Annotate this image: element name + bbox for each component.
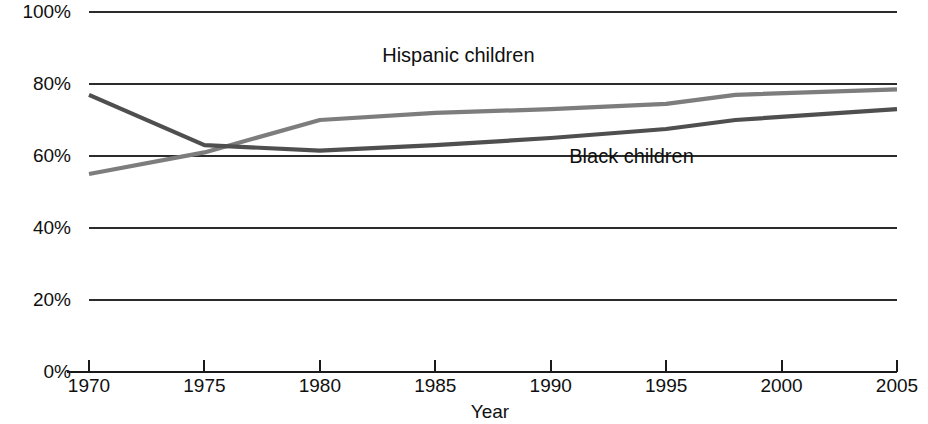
x-tick-label-2000: 2000: [760, 375, 802, 396]
x-tick-label-1995: 1995: [645, 375, 687, 396]
chart-canvas: 100%80%60%40%20%0% 197019751980198519901…: [0, 0, 928, 424]
series-label-black: Black children: [569, 145, 694, 167]
x-axis-line-group: [67, 360, 897, 372]
y-tick-label-100: 100%: [22, 1, 71, 22]
x-axis-tick-labels: 19701975198019851990199520002005: [68, 375, 918, 396]
series-line-1: [89, 95, 897, 151]
y-tick-label-60: 60%: [33, 145, 71, 166]
x-tick-label-2005: 2005: [876, 375, 918, 396]
x-tick-label-1975: 1975: [183, 375, 225, 396]
x-tick-label-1980: 1980: [299, 375, 341, 396]
y-tick-label-80: 80%: [33, 73, 71, 94]
series-label-hispanic: Hispanic children: [382, 44, 534, 66]
series-lines-group: [89, 89, 897, 174]
y-tick-label-40: 40%: [33, 217, 71, 238]
x-axis-title-group: Year: [471, 401, 510, 422]
line-chart: 100%80%60%40%20%0% 197019751980198519901…: [0, 0, 928, 424]
x-tick-label-1970: 1970: [68, 375, 110, 396]
x-axis-title: Year: [471, 401, 510, 422]
y-tick-label-20: 20%: [33, 289, 71, 310]
x-tick-label-1985: 1985: [414, 375, 456, 396]
y-axis-tick-labels: 100%80%60%40%20%0%: [22, 1, 71, 382]
x-tick-label-1990: 1990: [530, 375, 572, 396]
series-line-0: [89, 89, 897, 174]
